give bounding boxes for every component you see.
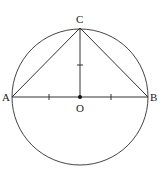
label-b: B	[150, 91, 157, 103]
geometry-diagram: A B C O	[0, 0, 168, 179]
label-a: A	[2, 91, 10, 103]
segments	[12, 28, 148, 97]
center-point-o	[78, 95, 82, 99]
label-c: C	[76, 13, 83, 25]
label-o: O	[76, 102, 84, 114]
diagram-svg: A B C O	[0, 0, 168, 179]
